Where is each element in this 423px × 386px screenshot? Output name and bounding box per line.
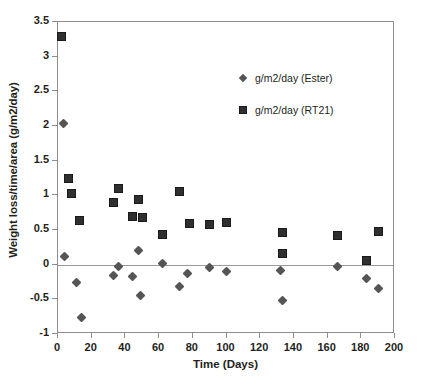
x-axis-tick-mark xyxy=(259,333,260,338)
data-point-rt21 xyxy=(67,189,76,198)
data-point-ester xyxy=(277,295,287,305)
legend-item-rt21[interactable]: g/m2/day (RT21) xyxy=(236,94,386,126)
y-axis-tick-label: 0 xyxy=(18,257,49,269)
data-point-rt21 xyxy=(362,256,371,265)
y-axis-tick-label: 3.5 xyxy=(18,14,49,26)
x-axis-tick-mark xyxy=(91,333,92,338)
legend-label-rt21: g/m2/day (RT21) xyxy=(255,104,334,116)
data-point-ester xyxy=(275,266,285,276)
data-point-rt21 xyxy=(374,227,383,236)
data-point-rt21 xyxy=(128,212,137,221)
x-axis-tick-mark xyxy=(226,333,227,338)
y-axis-tick-label: -1 xyxy=(18,326,49,338)
legend-label-ester: g/m2/day (Ester) xyxy=(255,72,333,84)
scatter-chart: Weight loss/time/area (g/m2/day) -1-0.50… xyxy=(0,0,423,386)
data-point-ester xyxy=(136,290,146,300)
data-point-rt21 xyxy=(138,213,147,222)
data-point-rt21 xyxy=(185,219,194,228)
data-point-rt21 xyxy=(222,218,231,227)
y-axis-tick-label: 1 xyxy=(18,187,49,199)
x-axis-tick-label: 200 xyxy=(374,341,414,353)
x-axis-tick-mark xyxy=(394,333,395,338)
data-point-rt21 xyxy=(278,228,287,237)
x-axis-title-text: Time (Days) xyxy=(193,358,258,370)
data-point-ester xyxy=(127,272,137,282)
legend-item-ester[interactable]: g/m2/day (Ester) xyxy=(236,62,386,94)
y-axis-tick-label: 3 xyxy=(18,49,49,61)
data-point-ester xyxy=(222,267,232,277)
data-point-ester xyxy=(60,251,70,261)
y-axis-tick-label: -0.5 xyxy=(18,291,49,303)
data-point-rt21 xyxy=(278,249,287,258)
square-marker-icon xyxy=(236,106,250,114)
data-point-rt21 xyxy=(158,230,167,239)
diamond-marker-icon xyxy=(236,75,250,81)
data-point-ester xyxy=(77,312,87,322)
data-point-rt21 xyxy=(175,187,184,196)
x-axis-tick-mark xyxy=(360,333,361,338)
data-point-rt21 xyxy=(114,184,123,193)
data-point-rt21 xyxy=(64,174,73,183)
y-axis-tick-label: 2 xyxy=(18,118,49,130)
x-axis-tick-mark xyxy=(124,333,125,338)
data-point-ester xyxy=(174,282,184,292)
x-axis-title: Time (Days) xyxy=(57,358,394,370)
data-point-ester xyxy=(72,277,82,287)
data-point-ester xyxy=(333,261,343,271)
data-point-ester xyxy=(373,284,383,294)
legend: g/m2/day (Ester) g/m2/day (RT21) xyxy=(236,62,386,126)
data-point-rt21 xyxy=(205,220,214,229)
data-point-rt21 xyxy=(134,195,143,204)
x-axis-tick-mark xyxy=(57,333,58,338)
y-axis-tick-label: 1.5 xyxy=(18,153,49,165)
x-axis-tick-mark xyxy=(158,333,159,338)
y-axis-tick-label: 0.5 xyxy=(18,222,49,234)
data-point-rt21 xyxy=(333,231,342,240)
data-point-rt21 xyxy=(75,216,84,225)
data-point-ester xyxy=(58,119,68,129)
data-point-rt21 xyxy=(57,32,66,41)
data-point-ester xyxy=(183,269,193,279)
data-point-rt21 xyxy=(109,198,118,207)
y-axis-tick-label: 2.5 xyxy=(18,83,49,95)
data-point-ester xyxy=(361,274,371,284)
data-point-ester xyxy=(114,262,124,272)
data-point-ester xyxy=(134,245,144,255)
x-axis-tick-mark xyxy=(327,333,328,338)
x-axis-tick-mark xyxy=(293,333,294,338)
zero-reference-line xyxy=(58,265,393,266)
data-point-ester xyxy=(109,270,119,280)
x-axis-tick-mark xyxy=(192,333,193,338)
